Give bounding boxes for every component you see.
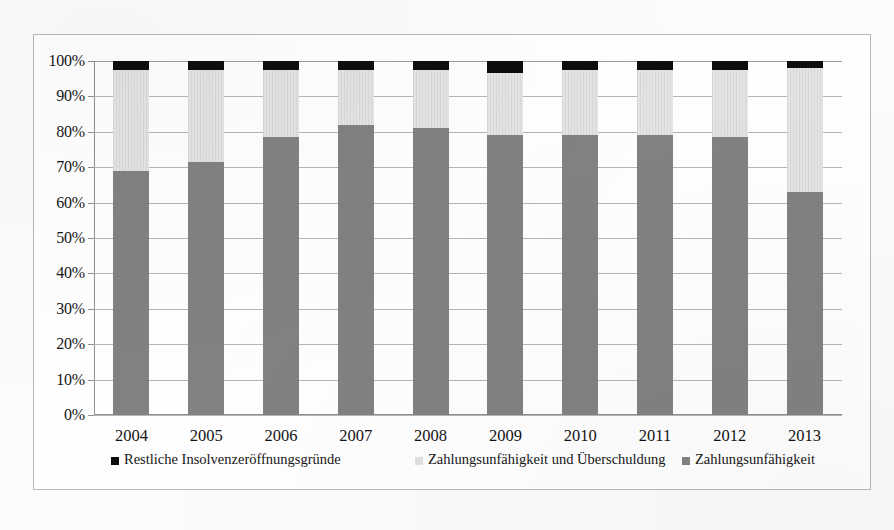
bar-stack[interactable] xyxy=(113,61,149,415)
x-axis-tick-label: 2009 xyxy=(489,426,522,446)
chart-frame: 100%90%80%70%60%50%40%30%20%10%0% 200420… xyxy=(33,34,871,490)
bar-stack[interactable] xyxy=(787,61,823,415)
bar-stack[interactable] xyxy=(188,61,224,415)
bar-stack[interactable] xyxy=(263,61,299,415)
legend-item[interactable]: Restliche Insolvenzeröffnungsgründe xyxy=(111,451,341,468)
bar-column[interactable]: 2007 xyxy=(318,61,393,415)
y-axis-tick-label: 50% xyxy=(56,229,85,247)
y-axis-tick-label: 70% xyxy=(56,158,85,176)
x-axis-tick-label: 2011 xyxy=(639,426,671,446)
x-axis-tick-label: 2012 xyxy=(713,426,746,446)
bar-segment[interactable] xyxy=(487,135,523,415)
plot-area: 100%90%80%70%60%50%40%30%20%10%0% 200420… xyxy=(94,61,842,415)
x-axis-tick-label: 2006 xyxy=(264,426,297,446)
bar-stack[interactable] xyxy=(487,61,523,415)
legend-item[interactable]: Zahlungsunfähigkeit und Überschuldung xyxy=(415,451,666,468)
bar-segment[interactable] xyxy=(188,61,224,70)
bar-stack[interactable] xyxy=(562,61,598,415)
bar-segment[interactable] xyxy=(637,135,673,415)
bar-column[interactable]: 2008 xyxy=(393,61,468,415)
bar-segment[interactable] xyxy=(338,61,374,70)
bar-segment[interactable] xyxy=(113,70,149,171)
bar-segment[interactable] xyxy=(113,61,149,70)
x-axis-tick-label: 2007 xyxy=(339,426,372,446)
bar-column[interactable]: 2010 xyxy=(543,61,618,415)
bar-segment[interactable] xyxy=(562,135,598,415)
bar-stack[interactable] xyxy=(413,61,449,415)
y-axis-tick-label: 60% xyxy=(56,194,85,212)
bar-segment[interactable] xyxy=(263,61,299,70)
bar-segment[interactable] xyxy=(712,61,748,70)
y-axis-tick-label: 40% xyxy=(56,264,85,282)
y-axis-tick-label: 90% xyxy=(56,87,85,105)
bar-segment[interactable] xyxy=(712,137,748,415)
bar-column[interactable]: 2009 xyxy=(468,61,543,415)
x-axis-tick-label: 2008 xyxy=(414,426,447,446)
y-axis-tick-label: 20% xyxy=(56,335,85,353)
x-axis-tick-label: 2004 xyxy=(115,426,148,446)
bar-segment[interactable] xyxy=(637,70,673,135)
bar-segment[interactable] xyxy=(338,70,374,125)
bar-column[interactable]: 2004 xyxy=(94,61,169,415)
y-axis-tick-label: 0% xyxy=(64,406,85,424)
bar-stack[interactable] xyxy=(338,61,374,415)
bar-segment[interactable] xyxy=(338,125,374,415)
legend-label: Restliche Insolvenzeröffnungsgründe xyxy=(124,451,341,468)
bar-segment[interactable] xyxy=(637,61,673,70)
bar-segment[interactable] xyxy=(712,70,748,137)
bar-segment[interactable] xyxy=(487,73,523,135)
bar-segment[interactable] xyxy=(562,70,598,135)
bar-column[interactable]: 2012 xyxy=(692,61,767,415)
y-axis-tick-label: 100% xyxy=(48,52,85,70)
legend-label: Zahlungsunfähigkeit und Überschuldung xyxy=(428,451,666,468)
y-axis-tick-label: 80% xyxy=(56,123,85,141)
bar-column[interactable]: 2006 xyxy=(244,61,319,415)
bar-segment[interactable] xyxy=(413,61,449,70)
bar-stack[interactable] xyxy=(637,61,673,415)
bar-column[interactable]: 2013 xyxy=(767,61,842,415)
bar-segment[interactable] xyxy=(787,68,823,192)
legend-swatch-icon xyxy=(415,457,423,465)
bar-segment[interactable] xyxy=(413,128,449,415)
bar-column[interactable]: 2011 xyxy=(618,61,693,415)
bar-segment[interactable] xyxy=(562,61,598,70)
bar-segment[interactable] xyxy=(263,70,299,137)
x-axis-tick-label: 2013 xyxy=(788,426,821,446)
gridline xyxy=(94,415,842,416)
legend-swatch-icon xyxy=(682,457,690,465)
chart-legend: Restliche InsolvenzeröffnungsgründeZahlu… xyxy=(34,451,870,473)
bar-segment[interactable] xyxy=(113,171,149,415)
bar-segment[interactable] xyxy=(263,137,299,415)
y-axis-tick-label: 10% xyxy=(56,371,85,389)
legend-item[interactable]: Zahlungsunfähigkeit xyxy=(682,451,815,468)
x-axis-tick-label: 2005 xyxy=(190,426,223,446)
x-axis-tick-label: 2010 xyxy=(564,426,597,446)
bar-segment[interactable] xyxy=(413,70,449,128)
legend-label: Zahlungsunfähigkeit xyxy=(695,451,815,468)
bar-segment[interactable] xyxy=(787,192,823,415)
bar-column[interactable]: 2005 xyxy=(169,61,244,415)
bar-segment[interactable] xyxy=(188,70,224,162)
y-tick-mark xyxy=(88,415,94,416)
bar-segment[interactable] xyxy=(188,162,224,415)
legend-swatch-icon xyxy=(111,457,119,465)
bar-segment[interactable] xyxy=(787,61,823,68)
bar-segment[interactable] xyxy=(487,61,523,73)
y-axis-tick-label: 30% xyxy=(56,300,85,318)
bar-stack[interactable] xyxy=(712,61,748,415)
